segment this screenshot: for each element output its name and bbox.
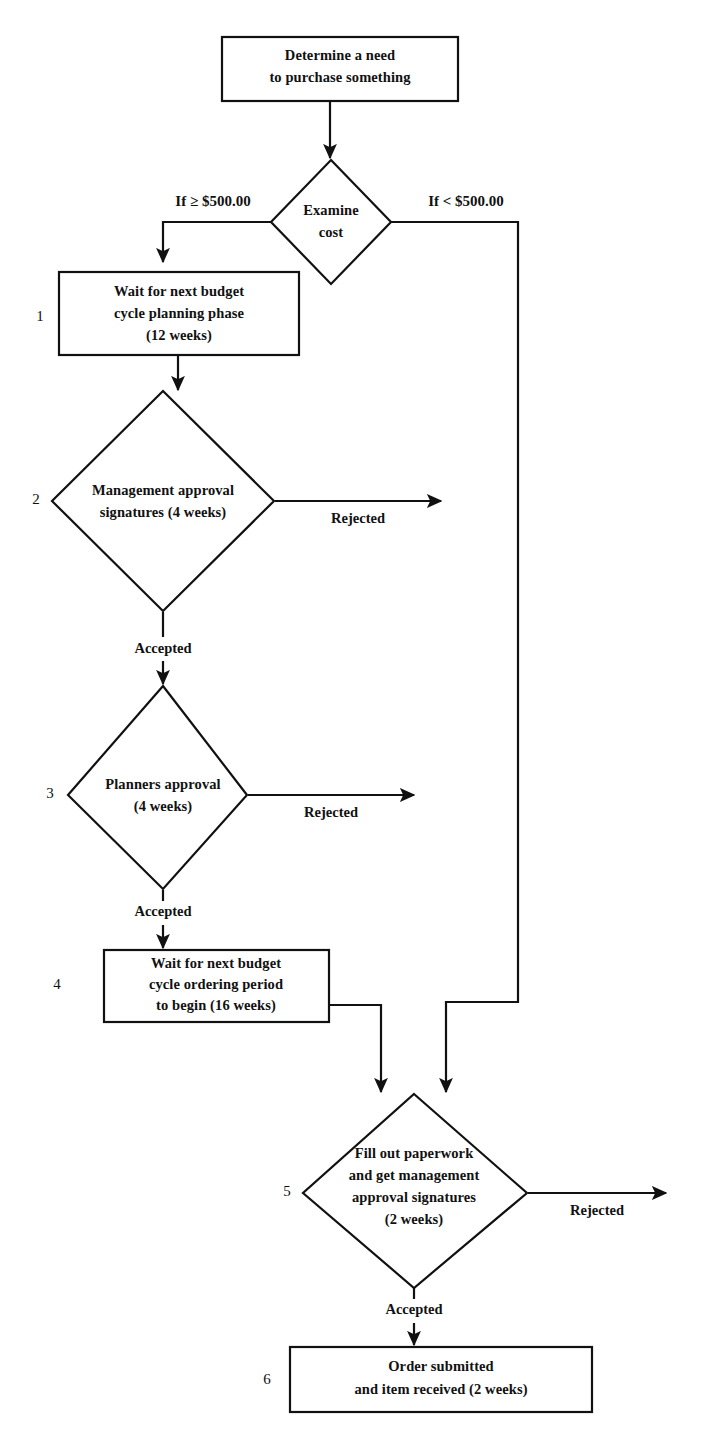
branch-label-high: If ≥ $500.00 [175, 193, 250, 209]
step2-diamond-shape [52, 391, 274, 611]
node-step-1: 1 Wait for next budget cycle planning ph… [36, 272, 299, 355]
step6-line-1: Order submitted [388, 1358, 494, 1374]
edge-label-rejected-3: Rejected [304, 804, 358, 820]
edge-label-accepted-3: Accepted [134, 903, 191, 919]
step4-number: 4 [53, 976, 61, 992]
step3-number: 3 [46, 785, 54, 801]
examine-cost-line-1: Examine [303, 202, 359, 218]
step2-line-1: Management approval [92, 482, 234, 498]
start-box-line-2: to purchase something [269, 69, 411, 85]
step5-line-3: approval signatures [352, 1189, 476, 1205]
step3-line-2: (4 weeks) [134, 798, 193, 815]
node-step-5: 5 Fill out paperwork and get management … [283, 1094, 527, 1288]
node-step-6: 6 Order submitted and item received (2 w… [263, 1347, 592, 1412]
node-step-3: 3 Planners approval (4 weeks) [46, 686, 247, 889]
step6-number: 6 [263, 1371, 271, 1387]
node-step-2: 2 Management approval signatures (4 week… [32, 391, 274, 611]
connector-examine-to-step5 [390, 222, 518, 1092]
flowchart-diagram: Determine a need to purchase something E… [0, 0, 704, 1449]
step4-line-1: Wait for next budget [151, 955, 281, 971]
step5-line-4: (2 weeks) [385, 1211, 444, 1228]
connector-step4-to-step5 [329, 1005, 381, 1092]
step2-line-2: signatures (4 weeks) [100, 504, 227, 521]
examine-cost-line-2: cost [319, 224, 344, 240]
branch-label-low: If < $500.00 [428, 193, 504, 209]
step1-line-1: Wait for next budget [114, 283, 244, 299]
connector-examine-to-step1 [163, 222, 272, 262]
step1-line-3: (12 weeks) [146, 327, 212, 344]
start-box-line-1: Determine a need [285, 47, 395, 63]
step4-line-2: cycle ordering period [149, 976, 283, 992]
step5-line-2: and get management [349, 1167, 480, 1183]
step5-number: 5 [283, 1183, 291, 1199]
flowchart-canvas: Determine a need to purchase something E… [0, 0, 704, 1449]
step3-line-1: Planners approval [105, 776, 220, 792]
node-start: Determine a need to purchase something [222, 37, 458, 101]
edge-label-accepted-2: Accepted [134, 640, 191, 656]
step1-number: 1 [36, 308, 44, 324]
edge-label-rejected-5: Rejected [570, 1202, 624, 1218]
edge-label-rejected-2: Rejected [331, 510, 385, 526]
step2-number: 2 [32, 491, 40, 507]
node-examine-cost: Examine cost [271, 160, 391, 284]
step6-line-2: and item received (2 weeks) [354, 1381, 527, 1398]
edge-label-accepted-5: Accepted [385, 1301, 442, 1317]
step6-box-shape [290, 1347, 592, 1412]
step1-line-2: cycle planning phase [114, 305, 245, 321]
step4-line-3: to begin (16 weeks) [156, 997, 276, 1014]
step5-line-1: Fill out paperwork [355, 1145, 474, 1161]
examine-cost-diamond-shape [271, 160, 391, 284]
node-step-4: 4 Wait for next budget cycle ordering pe… [53, 950, 329, 1022]
